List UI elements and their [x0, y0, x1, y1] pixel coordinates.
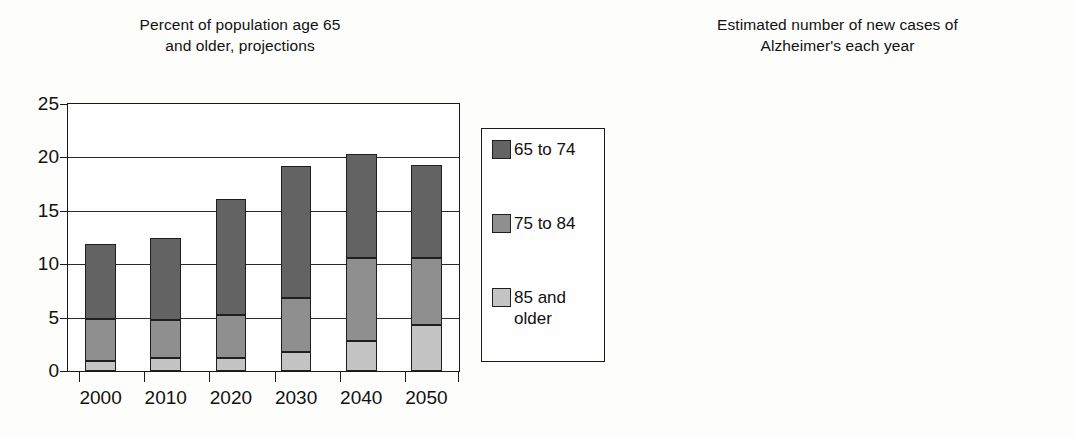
y-tick-mark — [60, 371, 68, 372]
bar-segment — [411, 258, 442, 325]
x-tick-mark — [209, 371, 210, 382]
age-group-legend: 65 to 7475 to 8485 and older — [481, 128, 605, 362]
bar-segment — [216, 358, 247, 371]
bar-segment — [346, 154, 377, 258]
bar-population-2030 — [281, 166, 312, 371]
bar-segment — [150, 320, 181, 358]
x-tick-label-2040: 2040 — [340, 387, 382, 409]
y-tick-label: 10 — [38, 253, 59, 275]
bar-segment — [411, 165, 442, 258]
bar-population-2010 — [150, 238, 181, 372]
y-tick-label: 15 — [38, 200, 59, 222]
y-tick-mark — [60, 211, 68, 212]
bar-population-2050 — [411, 165, 442, 371]
gridline-population — [68, 318, 459, 319]
bar-population-2040 — [346, 154, 377, 371]
bar-population-2020 — [216, 199, 247, 371]
x-tick-label-2050: 2050 — [405, 387, 447, 409]
plot-area-population: 0510152025200020102020203020402050 — [67, 103, 460, 372]
y-tick-mark — [60, 104, 68, 105]
bar-segment — [411, 325, 442, 371]
y-tick-mark — [60, 264, 68, 265]
legend-entry-0: 65 to 74 — [492, 139, 604, 213]
bar-segment — [150, 358, 181, 371]
bar-population-2000 — [85, 244, 116, 371]
x-tick-mark — [144, 371, 145, 382]
bar-segment — [216, 199, 247, 315]
x-tick-mark — [79, 371, 80, 382]
x-tick-mark — [275, 371, 276, 382]
x-tick-mark — [340, 371, 341, 382]
bar-segment — [281, 352, 312, 371]
y-tick-mark — [60, 157, 68, 158]
bar-segment — [346, 341, 377, 371]
x-tick-label-2030: 2030 — [275, 387, 317, 409]
y-tick-label: 0 — [48, 360, 59, 382]
legend-entry-2: 85 and older — [492, 287, 604, 361]
x-tick-label-2020: 2020 — [210, 387, 252, 409]
legend-label: 75 to 84 — [514, 213, 575, 234]
x-tick-label-2000: 2000 — [79, 387, 121, 409]
x-tick-label-2010: 2010 — [145, 387, 187, 409]
chart-title-alzheimers: Estimated number of new cases of Alzheim… — [600, 14, 1075, 56]
gridline-population — [68, 264, 459, 265]
chart-panel-population: Percent of population age 65 and older, … — [0, 0, 480, 438]
legend-swatch-icon — [492, 288, 511, 307]
legend-swatch-icon — [492, 140, 511, 159]
y-tick-label: 25 — [38, 93, 59, 115]
bar-segment — [346, 258, 377, 341]
y-tick-mark — [60, 318, 68, 319]
chart-panel-alzheimers: Estimated number of new cases of Alzheim… — [600, 0, 1075, 438]
x-tick-mark — [405, 371, 406, 382]
bar-segment — [85, 319, 116, 362]
bar-segment — [281, 166, 312, 298]
bar-segment — [150, 238, 181, 320]
chart-title-population: Percent of population age 65 and older, … — [0, 14, 480, 56]
legend-swatch-icon — [492, 214, 511, 233]
bar-segment — [281, 298, 312, 351]
legend-label: 85 and older — [514, 287, 566, 329]
figure-root: Percent of population age 65 and older, … — [0, 0, 1075, 438]
x-tick-mark — [458, 371, 459, 382]
y-tick-label: 5 — [48, 307, 59, 329]
bar-segment — [85, 244, 116, 319]
bar-segment — [85, 361, 116, 371]
gridline-population — [68, 157, 459, 158]
legend-label: 65 to 74 — [514, 139, 575, 160]
gridline-population — [68, 211, 459, 212]
y-tick-label: 20 — [38, 146, 59, 168]
legend-entry-1: 75 to 84 — [492, 213, 604, 287]
bar-segment — [216, 315, 247, 358]
